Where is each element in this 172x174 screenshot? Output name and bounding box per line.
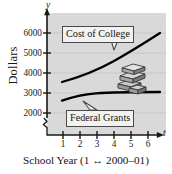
y-axis-break-symbol — [43, 119, 47, 136]
x-axis-variable-label: t — [163, 128, 166, 138]
y-tick-label: 5000 — [16, 49, 42, 58]
y-tick-label: 2000 — [16, 109, 42, 118]
y-tick-label: 4000 — [16, 69, 42, 78]
series-label-federal-grants: Federal Grants — [66, 110, 134, 127]
x-axis-caption: School Year (1 ↔ 2000–01) — [0, 154, 172, 166]
y-tick-label: 6000 — [16, 29, 42, 38]
y-tick-label: 3000 — [16, 89, 42, 98]
x-tick-label: 4 — [107, 140, 121, 149]
chart-figure: Dollars y t 6000 5000 4000 3000 2000 1 2… — [0, 0, 172, 174]
series-label-cost-of-college: Cost of College — [62, 26, 134, 43]
y-axis-variable-label: y — [46, 0, 50, 10]
x-tick-label: 6 — [141, 140, 155, 149]
x-tick-label: 5 — [124, 140, 138, 149]
x-tick-labels: 1 2 3 4 5 6 — [0, 140, 172, 154]
x-tick-label: 2 — [73, 140, 87, 149]
x-tick-label: 3 — [90, 140, 104, 149]
x-tick-label: 1 — [56, 140, 70, 149]
